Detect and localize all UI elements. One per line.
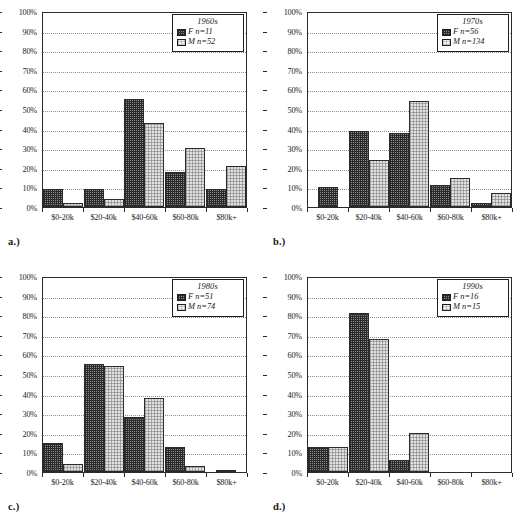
panel-caption: d.)	[273, 501, 286, 512]
y-axis-tick-mark	[263, 473, 267, 474]
bar-group	[124, 278, 165, 472]
legend-row-female: F n=16	[442, 292, 503, 302]
bar-male	[491, 193, 511, 207]
y-axis-tick-mark	[0, 169, 2, 170]
plot-wrap: 100%90%80%70%60%50%40%30%20%10%0%$0-20k$…	[307, 277, 512, 473]
x-axis-tick-mark	[430, 473, 431, 477]
y-axis-tick-label: 100%	[284, 8, 302, 17]
y-axis-tick-mark	[0, 316, 2, 317]
y-axis-tick-label: 90%	[23, 292, 37, 301]
plot-wrap: 100%90%80%70%60%50%40%30%20%10%0%$0-20k$…	[42, 12, 247, 208]
panel-caption: b.)	[273, 236, 286, 247]
legend-label-male: M n=52	[188, 37, 215, 47]
x-axis-tick-label: $40-60k	[124, 473, 165, 495]
y-axis-tick-mark	[263, 51, 267, 52]
y-axis-tick-label: 70%	[23, 331, 37, 340]
bar-female	[84, 364, 104, 472]
legend-swatch-female	[442, 29, 451, 36]
bar-male	[226, 166, 246, 207]
legend-row-male: M n=134	[442, 37, 503, 47]
y-axis-tick-mark	[263, 453, 267, 454]
y-axis-tick-mark	[263, 375, 267, 376]
y-axis-tick-mark	[0, 12, 2, 13]
x-axis-tick-label: $60-80k	[430, 473, 471, 495]
y-axis-tick-mark	[263, 149, 267, 150]
legend-label-female: F n=16	[453, 292, 478, 302]
y-axis-tick-label: 100%	[19, 8, 37, 17]
x-axis-tick-label: $80k+	[206, 473, 247, 495]
bar-female	[165, 172, 185, 207]
bar-female	[389, 133, 409, 207]
y-axis-tick-label: 50%	[288, 106, 302, 115]
y-axis-tick-label: 80%	[288, 312, 302, 321]
y-axis-tick-label: 20%	[288, 164, 302, 173]
bar-female	[124, 99, 144, 207]
x-axis-tick-mark	[471, 208, 472, 212]
x-axis-tick-mark	[471, 473, 472, 477]
bar-group	[308, 13, 349, 207]
y-axis-tick-label: 90%	[23, 27, 37, 36]
y-axis-tick-label: 20%	[288, 429, 302, 438]
y-axis-tick-label: 60%	[23, 86, 37, 95]
y-axis-tick-mark	[263, 316, 267, 317]
bar-male	[409, 101, 429, 207]
y-axis-tick-mark	[263, 110, 267, 111]
y-axis-tick-label: 30%	[23, 145, 37, 154]
bar-female	[308, 447, 328, 472]
chart-panel-c: 100%90%80%70%60%50%40%30%20%10%0%$0-20k$…	[0, 265, 265, 529]
y-axis-tick-mark	[0, 297, 2, 298]
y-axis-tick-label: 40%	[288, 125, 302, 134]
bar-female	[165, 447, 185, 472]
bar-male	[216, 470, 236, 472]
legend-row-male: M n=74	[177, 302, 238, 312]
y-axis-tick-label: 90%	[288, 292, 302, 301]
y-axis: 100%90%80%70%60%50%40%30%20%10%0%	[267, 12, 305, 208]
y-axis-tick-label: 80%	[23, 312, 37, 321]
x-axis-tick-mark	[512, 473, 513, 477]
x-axis-tick-mark	[512, 208, 513, 212]
y-axis-tick-label: 80%	[288, 47, 302, 56]
y-axis-tick-mark	[0, 375, 2, 376]
chart-legend: 1970sF n=56M n=134	[437, 14, 509, 52]
bar-male	[185, 148, 205, 207]
y-axis-tick-label: 40%	[23, 390, 37, 399]
y-axis-tick-mark	[0, 453, 2, 454]
y-axis-tick-label: 90%	[288, 27, 302, 36]
legend-swatch-male	[442, 304, 451, 311]
bar-female	[349, 131, 369, 207]
bar-male	[409, 433, 429, 472]
y-axis-tick-label: 60%	[23, 351, 37, 360]
y-axis-tick-mark	[263, 208, 267, 209]
bar-male	[450, 178, 470, 207]
y-axis-tick-mark	[0, 110, 2, 111]
y-axis-tick-mark	[0, 355, 2, 356]
y-axis-tick-label: 0%	[26, 204, 37, 213]
x-axis-tick-mark	[83, 473, 84, 477]
y-axis-tick-label: 30%	[288, 410, 302, 419]
bar-group	[389, 278, 430, 472]
bar-group	[43, 278, 84, 472]
y-axis-tick-label: 70%	[288, 66, 302, 75]
x-axis-tick-label: $0-20k	[307, 473, 348, 495]
x-axis-tick-mark	[124, 473, 125, 477]
four-panel-bar-chart-figure: 100%90%80%70%60%50%40%30%20%10%0%$0-20k$…	[0, 0, 530, 529]
chart-panel-d: 100%90%80%70%60%50%40%30%20%10%0%$0-20k$…	[265, 265, 530, 529]
x-axis-tick-label: $80k+	[206, 208, 247, 230]
legend-title: 1980s	[177, 282, 238, 291]
y-axis-tick-mark	[263, 32, 267, 33]
x-axis-tick-label: $0-20k	[42, 208, 83, 230]
x-axis-tick-mark	[247, 208, 248, 212]
bar-female	[206, 189, 226, 207]
x-axis-tick-label: $20-40k	[348, 473, 389, 495]
bar-female	[43, 443, 63, 472]
y-axis-tick-mark	[0, 130, 2, 131]
x-axis-tick-label: $60-80k	[165, 473, 206, 495]
bar-group	[308, 278, 349, 472]
bar-male	[369, 339, 389, 472]
y-axis-tick-label: 50%	[23, 371, 37, 380]
y-axis-tick-label: 40%	[23, 125, 37, 134]
y-axis-tick-mark	[263, 395, 267, 396]
legend-title: 1990s	[442, 282, 503, 291]
y-axis-tick-mark	[0, 473, 2, 474]
bar-male	[63, 464, 83, 472]
